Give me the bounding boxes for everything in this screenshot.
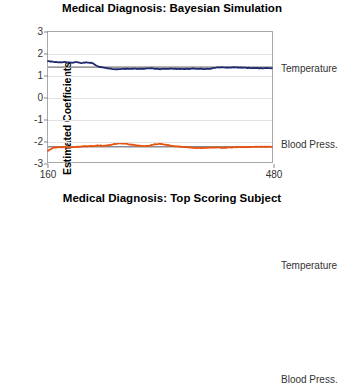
series-line-temperature <box>48 61 272 69</box>
chart-title-bottom: Medical Diagnosis: Top Scoring Subject <box>0 192 344 204</box>
y-tick-label--3: -3 <box>34 159 43 169</box>
gridline-y--2 <box>48 142 272 143</box>
y-tick-label-0: 0 <box>37 93 43 103</box>
x-tick-label-480: 480 <box>266 169 283 180</box>
chart-panel-bayesian-simulation: Medical Diagnosis: Bayesian Simulation E… <box>0 0 344 194</box>
gridline-y-2 <box>48 54 272 55</box>
x-tick-label-160: 160 <box>40 169 57 180</box>
plot-area-top: Estimated Coefficients -3-2-10123 160480 <box>47 31 273 163</box>
x-tick-mark-160 <box>48 164 49 168</box>
chart-title-top: Medical Diagnosis: Bayesian Simulation <box>0 2 344 14</box>
series-label-blood-press-bottom: Blood Press. <box>281 374 338 385</box>
chart-panel-top-scoring-subject: Medical Diagnosis: Top Scoring Subject E… <box>0 190 344 388</box>
x-tick-mark-480 <box>274 164 275 168</box>
series-label-temperature-bottom: Temperature <box>281 260 337 271</box>
gridline-y-1 <box>48 76 272 77</box>
y-tick-label--1: -1 <box>34 115 43 125</box>
y-tick-label-1: 1 <box>37 71 43 81</box>
series-label-blood-press-top: Blood Press. <box>281 139 338 150</box>
y-tick-label-2: 2 <box>37 49 43 59</box>
gridline-y-0 <box>48 98 272 99</box>
y-tick-label--2: -2 <box>34 137 43 147</box>
gridline-y--1 <box>48 120 272 121</box>
series-label-temperature-top: Temperature <box>281 63 337 74</box>
y-tick-label-3: 3 <box>37 27 43 37</box>
